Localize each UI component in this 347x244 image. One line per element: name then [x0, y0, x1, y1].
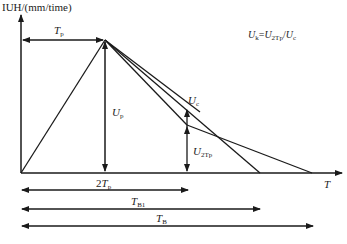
x-axis-label: T — [324, 178, 331, 190]
up-label: Up — [112, 106, 124, 120]
falling-limb-outer — [105, 40, 200, 112]
tb1-label: TB1 — [131, 195, 146, 209]
rising-limb — [21, 40, 105, 173]
unit-hydrograph-diagram: IUH/(mm/time) T Uk=U2Tp/Uc Tp Up Uc U2Tp… — [0, 0, 347, 244]
two-tp-label: 2Tp — [96, 177, 112, 191]
falling-limb-recession — [187, 125, 312, 173]
tp-label: Tp — [54, 24, 64, 38]
y-axis-label: IUH/(mm/time) — [2, 1, 72, 14]
u2tp-label: U2Tp — [193, 145, 213, 159]
formula: Uk=U2Tp/Uc — [248, 29, 296, 42]
tb-label: TB — [156, 212, 167, 226]
diagram-canvas: IUH/(mm/time) T Uk=U2Tp/Uc Tp Up Uc U2Tp… — [0, 0, 347, 244]
uc-label: Uc — [188, 94, 199, 108]
falling-limb-triangle — [105, 40, 260, 173]
